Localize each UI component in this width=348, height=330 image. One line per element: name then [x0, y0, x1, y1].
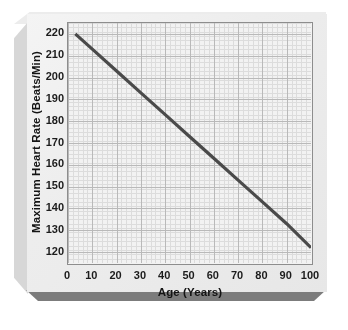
y-tick-label: 210 [46, 49, 64, 60]
x-tick-label: 60 [207, 270, 219, 281]
y-tick-label: 220 [46, 27, 64, 38]
plaque-left-bevel [14, 22, 28, 294]
y-tick-label: 160 [46, 158, 64, 169]
x-tick-label: 90 [280, 270, 292, 281]
y-tick-label: 130 [46, 224, 64, 235]
x-tick-label: 100 [301, 270, 319, 281]
plot-area [67, 22, 313, 265]
y-tick-label: 120 [46, 246, 64, 257]
y-tick-label: 200 [46, 71, 64, 82]
x-tick-label: 0 [64, 270, 70, 281]
y-tick-label: 150 [46, 180, 64, 191]
y-axis-title: Maximum Heart Rate (Beats/Min) [30, 20, 42, 264]
chart-figure: Maximum Heart Rate (Beats/Min) vs Age (Y… [0, 0, 348, 330]
x-tick-label: 50 [182, 270, 194, 281]
y-tick-label: 190 [46, 93, 64, 104]
x-tick-label: 20 [109, 270, 121, 281]
y-tick-label: 140 [46, 202, 64, 213]
heart-rate-line-series [68, 23, 311, 263]
x-tick-label: 70 [231, 270, 243, 281]
x-axis-title: Age (Years) [67, 286, 313, 298]
y-tick-label: 180 [46, 115, 64, 126]
x-tick-label: 40 [158, 270, 170, 281]
x-tick-label: 80 [255, 270, 267, 281]
x-tick-label: 10 [85, 270, 97, 281]
y-tick-label: 170 [46, 137, 64, 148]
x-axis-tick-labels: 0102030405060708090100 [0, 270, 348, 286]
x-tick-label: 30 [134, 270, 146, 281]
